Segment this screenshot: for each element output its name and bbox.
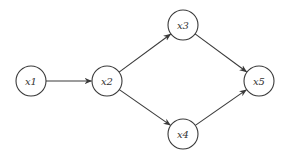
node-label: x1 — [25, 76, 37, 87]
node-x5: x5 — [244, 66, 274, 96]
node-x4: x4 — [168, 119, 198, 149]
nodes: x1x2x3x4x5 — [16, 10, 274, 149]
edge-x3-to-x5 — [195, 34, 246, 72]
node-label: x3 — [177, 20, 189, 31]
edge-x2-to-x4 — [119, 90, 170, 126]
node-x3: x3 — [168, 10, 198, 40]
node-label: x5 — [253, 76, 265, 87]
node-x2: x2 — [92, 66, 122, 96]
node-label: x4 — [177, 129, 189, 140]
node-label: x2 — [101, 76, 113, 87]
graph-canvas: x1x2x3x4x5 — [0, 0, 288, 156]
edge-x4-to-x5 — [195, 90, 246, 126]
edges — [46, 34, 247, 126]
edge-x2-to-x3 — [119, 34, 170, 72]
node-x1: x1 — [16, 66, 46, 96]
